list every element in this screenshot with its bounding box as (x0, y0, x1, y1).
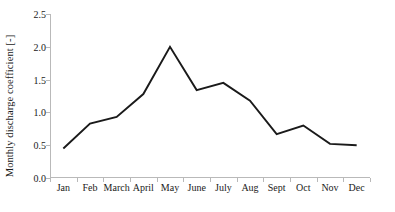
x-axis-tick-label: Dec (349, 182, 365, 193)
x-axis-tick-label: Oct (296, 182, 310, 193)
series-polyline (63, 47, 356, 149)
y-axis-tick-label: 0.0 (22, 173, 46, 184)
line-chart-figure: Monthly discharge coefficient [-] 0.00.5… (0, 0, 395, 212)
y-axis-tick-label: 2.0 (22, 41, 46, 52)
x-axis-tick-label: Nov (321, 182, 338, 193)
y-axis-title: Monthly discharge coefficient [-] (0, 0, 18, 212)
x-axis-tick-label: March (104, 182, 130, 193)
y-axis-tick-label: 1.5 (22, 74, 46, 85)
x-axis-tick-label: Jan (57, 182, 70, 193)
y-axis-tick-mark (46, 14, 50, 15)
y-axis-tick-mark (46, 145, 50, 146)
y-axis-tick-mark (46, 47, 50, 48)
y-axis-tick-label: 0.5 (22, 140, 46, 151)
y-axis-tick-label-group: 0.00.51.01.52.02.5 (22, 8, 46, 180)
x-axis-tick-label: April (133, 182, 154, 193)
x-axis-tick-label: July (215, 182, 232, 193)
y-axis-tick-label: 2.5 (22, 9, 46, 20)
x-axis-tick-label: Feb (83, 182, 98, 193)
plot-area (50, 14, 370, 178)
x-axis-tick-label: June (187, 182, 205, 193)
x-axis-tick-label: Sept (268, 182, 286, 193)
data-series-line (50, 14, 370, 178)
x-axis-tick-mark (370, 178, 371, 182)
x-axis-tick-label: Aug (241, 182, 258, 193)
y-axis-tick-mark (46, 80, 50, 81)
x-axis-tick-label-group: JanFebMarchAprilMayJuneJulyAugSeptOctNov… (50, 182, 370, 204)
y-axis-tick-label: 1.0 (22, 107, 46, 118)
x-axis-tick-label: May (161, 182, 179, 193)
y-axis-tick-mark (46, 112, 50, 113)
